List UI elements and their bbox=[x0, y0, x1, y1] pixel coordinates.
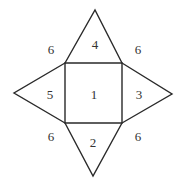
face-label-top: 4 bbox=[92, 37, 99, 52]
pyramid-net-diagram: 1 2 3 4 5 6 6 6 6 bbox=[0, 0, 184, 186]
triangle-left bbox=[14, 63, 65, 123]
triangle-bottom bbox=[65, 123, 122, 176]
face-label-left: 5 bbox=[47, 87, 54, 102]
diagram-svg: 1 2 3 4 5 6 6 6 6 bbox=[0, 0, 184, 186]
face-label-bottom: 2 bbox=[90, 135, 97, 150]
face-label-center: 1 bbox=[91, 87, 98, 102]
triangle-right bbox=[122, 63, 172, 123]
edge-label-bottom-left: 6 bbox=[48, 129, 55, 144]
edge-label-top-left: 6 bbox=[48, 42, 55, 57]
edge-label-bottom-right: 6 bbox=[135, 129, 142, 144]
edge-label-top-right: 6 bbox=[135, 42, 142, 57]
face-label-right: 3 bbox=[136, 87, 143, 102]
